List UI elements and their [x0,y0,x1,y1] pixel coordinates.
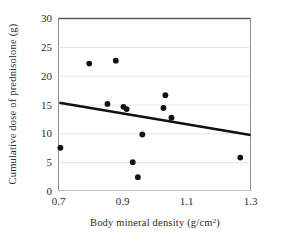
y-axis-title: Cumulative dose of prednisolone (g) [7,23,19,184]
x-tick-label: 1.1 [180,195,194,207]
data-point [162,92,168,98]
data-point [237,155,243,161]
data-point [113,58,119,64]
y-tick-label: 30 [41,12,53,24]
y-tick-label: 5 [47,156,53,168]
data-point [58,145,64,151]
x-tick-label: 0.9 [116,195,130,207]
data-point [86,61,92,67]
x-tick-label: 0.7 [52,195,66,207]
y-tick-label: 20 [41,70,53,82]
x-axis-title-tail: ) [216,217,220,229]
y-tick-label: 10 [41,127,53,139]
data-point [105,101,111,107]
data-point [130,159,136,165]
data-point [169,115,175,121]
x-axis-title: Body mineral density (g/cm2) [90,217,220,230]
x-axis-title-main: Body mineral density (g/cm [90,217,213,229]
data-point [135,174,141,180]
y-tick-label: 25 [41,41,53,53]
data-point [124,106,130,112]
y-tick-label: 15 [41,99,53,111]
data-point [161,105,167,111]
x-tick-label: 1.3 [244,195,258,207]
scatter-chart-figure: 051015202530 0.70.91.11.3 Body mineral d… [0,0,300,243]
data-point [139,132,145,138]
chart-canvas: 051015202530 0.70.91.11.3 Body mineral d… [0,0,300,243]
